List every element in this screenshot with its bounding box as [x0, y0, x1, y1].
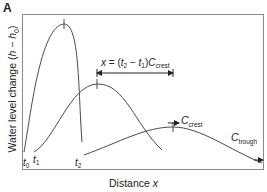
crest-speed-label: Ccrest: [181, 114, 203, 128]
distance-equation: x = (t2 − t1)Ccrest: [100, 57, 170, 69]
trough-speed-label: Ctrough: [231, 131, 257, 146]
wave-t2-curve: [34, 84, 162, 152]
time-label-t1: t1: [33, 154, 40, 166]
time-label-t2: t2: [75, 157, 82, 169]
time-label-t0: t0: [23, 157, 30, 169]
wave-diagram: x = (t2 − t1)Ccrest Ccrest Ctrough t0 t1…: [0, 0, 267, 192]
wave-t1-curve: [24, 24, 82, 152]
